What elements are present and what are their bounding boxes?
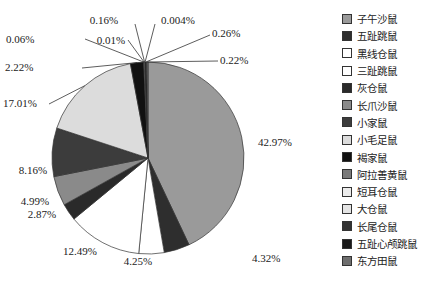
- legend-item: 长爪沙鼠: [342, 96, 438, 113]
- legend-item: 东方田鼠: [342, 252, 438, 269]
- legend-item: 灰仓鼠: [342, 79, 438, 96]
- slice-label: 2.22%: [5, 61, 33, 73]
- legend-swatch-icon: [342, 239, 352, 249]
- pie-chart: 42.97%4.32%4.25%12.49%2.87%4.99%8.16%17.…: [0, 0, 330, 297]
- legend-label: 三趾跳鼠: [357, 63, 397, 78]
- legend-item: 大仓鼠: [342, 200, 438, 217]
- legend-swatch-icon: [342, 83, 352, 93]
- legend-swatch-icon: [342, 256, 352, 266]
- leader-line: [147, 61, 218, 62]
- slice-label: 2.87%: [28, 208, 56, 220]
- legend-label: 黑线仓鼠: [357, 46, 397, 61]
- legend-label: 小毛足鼠: [357, 132, 397, 147]
- slice-label: 8.16%: [19, 164, 47, 176]
- slice-label: 0.16%: [90, 14, 118, 26]
- legend-swatch-icon: [342, 117, 352, 127]
- legend-label: 子午沙鼠: [357, 11, 397, 26]
- legend-swatch-icon: [342, 48, 352, 58]
- legend-label: 五趾跳鼠: [357, 28, 397, 43]
- legend-swatch-icon: [342, 187, 352, 197]
- slice-label: 17.01%: [3, 97, 37, 109]
- slice-label: 4.25%: [124, 255, 152, 267]
- legend-label: 褐家鼠: [357, 150, 387, 165]
- legend-swatch-icon: [342, 152, 352, 162]
- leader-line: [146, 35, 210, 62]
- slice-label: 42.97%: [258, 136, 292, 148]
- legend-item: 五趾跳鼠: [342, 27, 438, 44]
- legend-item: 三趾跳鼠: [342, 62, 438, 79]
- legend-item: 褐家鼠: [342, 148, 438, 165]
- legend-label: 阿拉善黄鼠: [357, 167, 407, 182]
- legend-label: 小家鼠: [357, 115, 387, 130]
- slice-label: 12.49%: [63, 245, 97, 257]
- legend-label: 长爪沙鼠: [357, 98, 397, 113]
- legend-swatch-icon: [342, 169, 352, 179]
- legend-label: 五趾心颅跳鼠: [357, 236, 417, 251]
- legend-swatch-icon: [342, 204, 352, 214]
- slice-label: 0.06%: [6, 33, 34, 45]
- legend: 子午沙鼠五趾跳鼠黑线仓鼠三趾跳鼠灰仓鼠长爪沙鼠小家鼠小毛足鼠褐家鼠阿拉善黄鼠短耳…: [342, 10, 438, 269]
- legend-swatch-icon: [342, 31, 352, 41]
- pie-slices: [52, 62, 244, 254]
- slice-label: 4.99%: [21, 195, 49, 207]
- leader-line: [145, 24, 155, 62]
- legend-label: 灰仓鼠: [357, 80, 387, 95]
- legend-swatch-icon: [342, 135, 352, 145]
- legend-item: 五趾心颅跳鼠: [342, 235, 438, 252]
- slice-label: 4.32%: [252, 252, 280, 264]
- legend-label: 东方田鼠: [357, 253, 397, 268]
- legend-item: 小家鼠: [342, 114, 438, 131]
- legend-label: 短耳仓鼠: [357, 184, 397, 199]
- legend-swatch-icon: [342, 66, 352, 76]
- slice-label: 0.004%: [161, 14, 195, 26]
- slice-label: 0.01%: [97, 34, 125, 46]
- legend-item: 小毛足鼠: [342, 131, 438, 148]
- legend-item: 短耳仓鼠: [342, 183, 438, 200]
- legend-swatch-icon: [342, 100, 352, 110]
- slice-label: 0.22%: [220, 54, 248, 66]
- legend-swatch-icon: [342, 14, 352, 24]
- legend-item: 黑线仓鼠: [342, 45, 438, 62]
- legend-label: 大仓鼠: [357, 201, 387, 216]
- legend-swatch-icon: [342, 221, 352, 231]
- legend-item: 长尾仓鼠: [342, 218, 438, 235]
- legend-item: 子午沙鼠: [342, 10, 438, 27]
- legend-item: 阿拉善黄鼠: [342, 166, 438, 183]
- legend-label: 长尾仓鼠: [357, 219, 397, 234]
- slice-label: 0.26%: [212, 27, 240, 39]
